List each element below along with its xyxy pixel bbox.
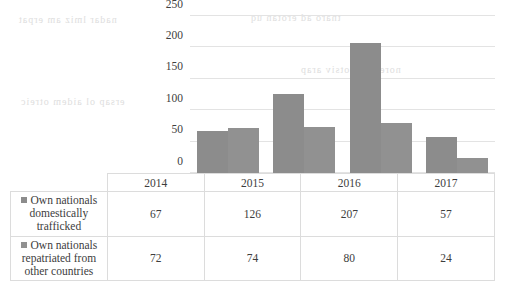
year-header-cell: 2014 [107, 174, 204, 192]
data-value-cell: 207 [301, 192, 398, 237]
legend-swatch-icon [21, 197, 27, 203]
bar [350, 43, 381, 173]
y-axis-tick-label: 0 [177, 156, 183, 168]
bar [457, 158, 488, 173]
year-header-cell: 2017 [398, 174, 495, 192]
ghost-text-artifact: nadar lmiz am erpat [18, 14, 117, 25]
data-value-cell: 72 [107, 236, 204, 281]
bar [228, 128, 259, 173]
table-header-row: 2014201520162017 [11, 174, 495, 192]
bar [273, 94, 304, 173]
legend-label-text: Own nationals domestically trafficked [30, 194, 98, 232]
bar-group [266, 16, 342, 173]
table-corner-cell [11, 174, 108, 192]
table-row: Own nationals domestically trafficked671… [11, 192, 495, 237]
bar-group [190, 16, 266, 173]
y-axis-tick-label: 250 [166, 0, 183, 10]
data-value-cell: 126 [204, 192, 301, 237]
data-value-cell: 67 [107, 192, 204, 237]
data-value-cell: 57 [398, 192, 495, 237]
ghost-text-artifact: ersap ol aidem otreic [20, 96, 125, 107]
bar-group [419, 16, 495, 173]
plot-area: 050100150200250 [190, 16, 495, 173]
y-axis-tick-label: 50 [172, 124, 184, 136]
year-header-cell: 2015 [204, 174, 301, 192]
bar [304, 127, 335, 173]
legend-label-text: Own nationals repatriated from other cou… [22, 239, 98, 277]
y-axis-tick-label: 200 [166, 30, 183, 42]
bar [426, 137, 457, 173]
data-table: 2014201520162017Own nationals domestical… [10, 173, 495, 281]
data-value-cell: 74 [204, 236, 301, 281]
legend-label-cell[interactable]: Own nationals repatriated from other cou… [11, 236, 108, 281]
year-header-cell: 2016 [301, 174, 398, 192]
legend-swatch-icon [21, 242, 27, 248]
bar [381, 123, 412, 173]
data-value-cell: 80 [301, 236, 398, 281]
y-axis-tick-label: 150 [166, 62, 183, 74]
bar-groups [190, 16, 495, 173]
legend-label-cell[interactable]: Own nationals domestically trafficked [11, 192, 108, 237]
y-axis-tick-label: 100 [166, 93, 183, 105]
bar [197, 131, 228, 173]
bar-group [343, 16, 419, 173]
data-value-cell: 24 [398, 236, 495, 281]
table-row: Own nationals repatriated from other cou… [11, 236, 495, 281]
